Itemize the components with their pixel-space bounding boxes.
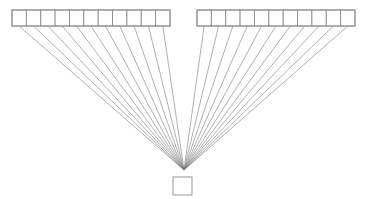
cell-0-7[interactable] [113,10,127,26]
cell-1-10[interactable] [341,10,355,26]
edge-line-right-array-7 [184,26,305,170]
convergence-diagram [0,0,367,199]
right-array [197,10,355,26]
edges-layer [19,26,348,170]
cell-0-10[interactable] [156,10,170,26]
cell-1-0[interactable] [197,10,211,26]
cell-0-1[interactable] [26,10,40,26]
cell-0-9[interactable] [141,10,155,26]
cell-1-5[interactable] [269,10,283,26]
edge-line-left-array-7 [120,26,184,170]
cell-1-1[interactable] [211,10,225,26]
cell-0-5[interactable] [84,10,98,26]
cell-1-2[interactable] [226,10,240,26]
cell-0-3[interactable] [55,10,69,26]
edge-line-left-array-1 [34,26,184,170]
cells-layer [12,10,355,26]
cell-1-9[interactable] [326,10,340,26]
cell-0-8[interactable] [127,10,141,26]
edge-line-right-array-5 [184,26,276,170]
edge-line-left-array-5 [91,26,184,170]
cell-0-4[interactable] [69,10,83,26]
edge-line-left-array-6 [105,26,184,170]
cell-1-6[interactable] [283,10,297,26]
edge-line-right-array-9 [184,26,333,170]
edge-line-left-array-4 [77,26,184,170]
cell-1-4[interactable] [254,10,268,26]
edge-line-right-array-8 [184,26,319,170]
diagram-canvas [0,0,367,199]
cell-0-2[interactable] [41,10,55,26]
cell-1-7[interactable] [298,10,312,26]
edge-line-right-array-4 [184,26,262,170]
edge-line-right-array-3 [184,26,247,170]
edge-line-left-array-2 [48,26,184,170]
cell-0-6[interactable] [98,10,112,26]
sink-layer [173,177,192,195]
cell-0-0[interactable] [12,10,26,26]
edge-line-right-array-6 [184,26,290,170]
left-array [12,10,170,26]
cell-1-3[interactable] [240,10,254,26]
cell-1-8[interactable] [312,10,326,26]
sink-node[interactable] [173,177,192,195]
